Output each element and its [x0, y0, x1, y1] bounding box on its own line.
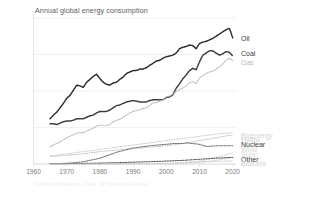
- series-label-gas: Gas: [241, 58, 254, 65]
- x-tick-label: 1970: [59, 168, 74, 175]
- series-label-coal: Coal: [241, 50, 255, 57]
- energy-consumption-chart: Annual global energy consumption 200 EJ1…: [0, 0, 316, 199]
- series-label-oil: Oil: [241, 35, 250, 42]
- x-tick-label: 2010: [192, 168, 207, 175]
- x-tick-label: 1960: [26, 168, 41, 175]
- x-tick-label: 1990: [126, 168, 141, 175]
- x-tick-label: 2020: [225, 168, 240, 175]
- x-tick-label: 2000: [159, 168, 174, 175]
- series-label-biofuels: Biofuels: [241, 160, 266, 167]
- chart-credit: OurWorldInData.org • Data: BP Statistica…: [34, 181, 148, 187]
- x-tick-label: 1980: [93, 168, 108, 175]
